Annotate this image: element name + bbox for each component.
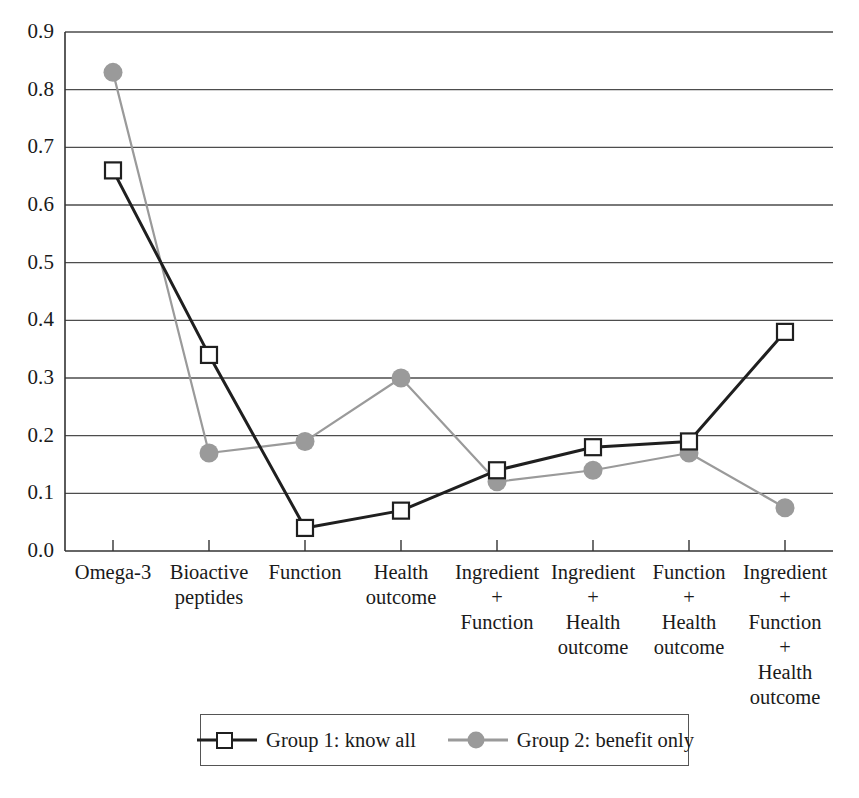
x-axis-ticks (113, 540, 785, 551)
legend-item-group-2: Group 2: benefit only (446, 729, 694, 752)
grid-lines (65, 32, 833, 493)
data-point-marker-square (393, 503, 409, 519)
y-axis-tick-label: 0.6 (0, 194, 54, 215)
data-point-marker-circle (200, 443, 219, 462)
data-point-marker-square (297, 520, 313, 536)
x-axis-tick-label: Ingredient + Function + Health outcome (733, 560, 837, 710)
data-series (104, 63, 795, 536)
data-point-marker-circle (584, 461, 603, 480)
data-point-marker-circle (104, 63, 123, 82)
y-axis-tick-label: 0.0 (0, 540, 54, 561)
y-axis-tick-label: 0.4 (0, 309, 54, 330)
legend-label-group-2: Group 2: benefit only (517, 729, 694, 752)
y-axis-tick-label: 0.5 (0, 252, 54, 273)
legend-label-group-1: Group 1: know all (266, 729, 416, 752)
data-point-marker-square (585, 439, 601, 455)
x-axis-tick-label: Ingredient + Function (445, 560, 549, 635)
data-point-marker-circle (296, 432, 315, 451)
data-point-marker-square (105, 162, 121, 178)
x-axis-tick-label: Function + Health outcome (637, 560, 741, 660)
data-point-marker-circle (776, 498, 795, 517)
y-axis-tick-label: 0.8 (0, 79, 54, 100)
y-axis-tick-label: 0.7 (0, 136, 54, 157)
x-axis-tick-label: Health outcome (349, 560, 453, 610)
x-axis-tick-label: Bioactive peptides (157, 560, 261, 610)
x-axis-tick-label: Omega-3 (61, 560, 165, 585)
y-axis-tick-label: 0.3 (0, 367, 54, 388)
data-point-marker-circle (392, 369, 411, 388)
chart-canvas (0, 0, 859, 798)
legend-marker-filled-circle-icon (446, 729, 510, 751)
line-chart-figure: 0.90.80.70.60.50.40.30.20.10.0 Omega-3Bi… (0, 0, 859, 798)
y-axis-tick-label: 0.9 (0, 21, 54, 42)
y-axis-tick-label: 0.1 (0, 482, 54, 503)
data-point-marker-square (777, 324, 793, 340)
data-point-marker-square (489, 462, 505, 478)
legend-item-group-1: Group 1: know all (195, 729, 416, 752)
x-axis-tick-label: Function (253, 560, 357, 585)
data-point-marker-square (681, 433, 697, 449)
axis-lines (65, 32, 833, 551)
y-axis-tick-label: 0.2 (0, 425, 54, 446)
legend-marker-open-square-icon (195, 729, 259, 751)
chart-legend: Group 1: know all Group 2: benefit only (200, 714, 689, 766)
x-axis-tick-label: Ingredient + Health outcome (541, 560, 645, 660)
data-point-marker-square (201, 347, 217, 363)
